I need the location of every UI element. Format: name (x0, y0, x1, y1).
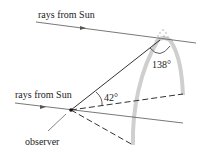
rainbow-band (133, 38, 183, 145)
label-angle-42: 42° (104, 92, 118, 103)
label-rays-top: rays from Sun (38, 9, 95, 20)
angle-arc-42 (96, 92, 102, 106)
ray-arrow-top (80, 26, 86, 30)
sun-ray-top (36, 22, 196, 43)
label-angle-138: 138° (152, 59, 171, 70)
observer-point (69, 108, 73, 112)
ray-arrow-bottom (40, 105, 46, 109)
rainbow-geometry-diagram: rays from Sun rays from Sun 42° 138° obs… (0, 0, 206, 157)
label-rays-bottom: rays from Sun (15, 89, 72, 100)
label-observer: observer (25, 136, 60, 147)
observer-pointer (48, 114, 66, 131)
dashed-line-down (71, 110, 133, 145)
